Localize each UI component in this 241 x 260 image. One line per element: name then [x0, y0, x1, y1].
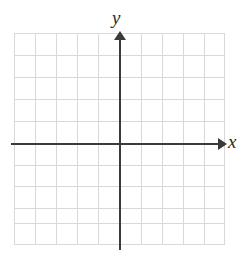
grid-line-vertical — [183, 33, 184, 245]
y-axis-label: y — [112, 8, 120, 27]
x-axis-label: x — [228, 132, 236, 151]
grid-line-vertical — [35, 33, 36, 245]
x-axis — [11, 143, 225, 145]
grid-line-vertical — [141, 33, 142, 245]
grid-line-vertical — [14, 33, 15, 245]
grid-line-vertical — [56, 33, 57, 245]
grid-line-vertical — [77, 33, 78, 245]
grid-line-vertical — [98, 33, 99, 245]
grid-line-vertical — [204, 33, 205, 245]
coordinate-plane-figure: y x — [0, 0, 241, 260]
grid-line-vertical — [162, 33, 163, 245]
y-axis — [119, 38, 121, 250]
y-axis-arrow-icon — [114, 31, 126, 40]
x-axis-arrow-icon — [218, 138, 227, 150]
